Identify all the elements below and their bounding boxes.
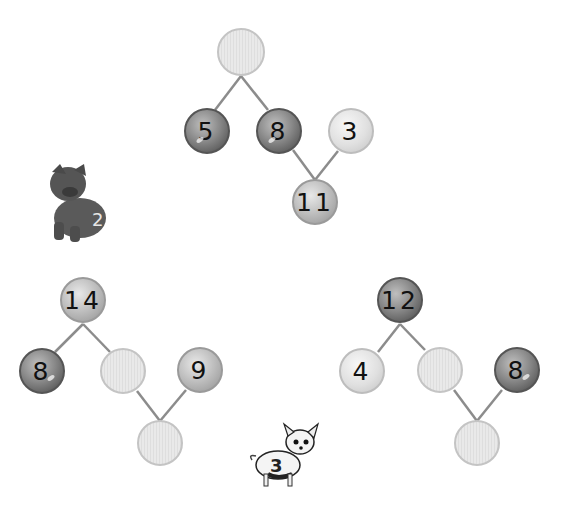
svg-text:2: 2: [92, 209, 103, 230]
addend-circle-8: 8: [256, 108, 302, 154]
dog-mascot-2-icon: 2: [40, 160, 112, 245]
bottom-sum-circle-11: 11: [292, 179, 338, 225]
bottom-sum-circle-blank[interactable]: [454, 420, 500, 466]
dog-mascot-3-icon: 3: [248, 420, 323, 490]
circle-value: 3: [342, 117, 361, 146]
addend-circle-5: 5: [184, 108, 230, 154]
addend-circle-blank[interactable]: [100, 348, 146, 394]
circle-value: 4: [353, 357, 372, 386]
addend-circle-3: 3: [328, 108, 374, 154]
addend-circle-8: 8: [19, 348, 65, 394]
bottom-sum-circle-blank[interactable]: [137, 420, 183, 466]
addend-circle-8: 8: [494, 347, 540, 393]
svg-text:3: 3: [270, 455, 283, 476]
number-bond-worksheet: 5 8 3 11 14 8 9 12 4 8 2: [0, 0, 564, 510]
addend-circle-4: 4: [339, 348, 385, 394]
circle-value: 14: [64, 286, 102, 315]
addend-circle-blank[interactable]: [417, 347, 463, 393]
circle-value: 12: [381, 286, 419, 315]
circle-value: 9: [191, 356, 210, 385]
top-sum-circle-12: 12: [377, 277, 423, 323]
top-sum-circle-blank[interactable]: [217, 28, 265, 76]
circle-value: 11: [296, 188, 334, 217]
top-sum-circle-14: 14: [60, 277, 106, 323]
addend-circle-9: 9: [177, 347, 223, 393]
